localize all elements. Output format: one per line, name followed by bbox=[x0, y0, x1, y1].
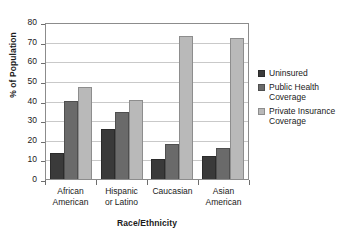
x-axis-title: Race/Ethnicity bbox=[45, 218, 249, 228]
legend-item[interactable]: Public Health Coverage bbox=[258, 82, 348, 103]
x-axis-category-label: Caucasian bbox=[147, 186, 198, 216]
bar-chart: % of Population 01020304050607080 Africa… bbox=[0, 0, 349, 243]
x-axis-tick-mark bbox=[45, 180, 46, 185]
y-axis-tick-label: 50 bbox=[28, 77, 37, 86]
y-axis-tick-label: 40 bbox=[28, 97, 37, 106]
legend-swatch-icon bbox=[258, 108, 265, 115]
x-axis-tick-labels: AfricanAmericanHispanicor LatinoCaucasia… bbox=[45, 186, 249, 216]
bar[interactable] bbox=[129, 100, 143, 179]
y-axis-tick-label: 20 bbox=[28, 136, 37, 145]
y-axis-tick-label: 10 bbox=[28, 155, 37, 164]
legend-label: Public Health Coverage bbox=[269, 82, 319, 103]
bar[interactable] bbox=[230, 38, 244, 179]
x-axis-tick-mark bbox=[147, 180, 148, 185]
bars-layer bbox=[46, 24, 248, 179]
legend-swatch-icon bbox=[258, 70, 265, 77]
legend-label: Uninsured bbox=[269, 68, 308, 79]
legend-swatch-icon bbox=[258, 84, 265, 91]
x-axis-tick-mark bbox=[96, 180, 97, 185]
bar-group bbox=[198, 24, 249, 179]
x-axis-tick-mark bbox=[249, 180, 250, 185]
plot-area bbox=[45, 23, 249, 180]
bar[interactable] bbox=[216, 148, 230, 179]
bar-group bbox=[147, 24, 198, 179]
bar[interactable] bbox=[64, 101, 78, 180]
y-axis-tick-label: 30 bbox=[28, 116, 37, 125]
bar[interactable] bbox=[179, 36, 193, 179]
legend-item[interactable]: Uninsured bbox=[258, 68, 348, 79]
x-axis-tick-mark bbox=[198, 180, 199, 185]
y-axis-tick-label: 0 bbox=[32, 175, 37, 184]
x-axis-category-label: AsianAmerican bbox=[198, 186, 249, 216]
legend-label: Private Insurance Coverage bbox=[269, 106, 335, 127]
bar[interactable] bbox=[50, 153, 64, 179]
bar[interactable] bbox=[202, 156, 216, 179]
bar[interactable] bbox=[151, 159, 165, 179]
x-axis-category-label: AfricanAmerican bbox=[45, 186, 96, 216]
bar-group bbox=[46, 24, 97, 179]
bar[interactable] bbox=[115, 112, 129, 179]
y-axis-tick-label: 80 bbox=[28, 18, 37, 27]
y-axis-tick-label: 70 bbox=[28, 38, 37, 47]
bar[interactable] bbox=[101, 129, 115, 179]
bar[interactable] bbox=[165, 144, 179, 179]
x-axis-category-label: Hispanicor Latino bbox=[96, 186, 147, 216]
bar[interactable] bbox=[78, 87, 92, 179]
y-axis: 01020304050607080 bbox=[0, 23, 45, 181]
legend: UninsuredPublic Health CoveragePrivate I… bbox=[258, 68, 348, 130]
legend-item[interactable]: Private Insurance Coverage bbox=[258, 106, 348, 127]
y-axis-tick-label: 60 bbox=[28, 57, 37, 66]
bar-group bbox=[97, 24, 148, 179]
